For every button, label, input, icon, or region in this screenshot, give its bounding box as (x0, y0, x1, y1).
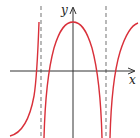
curve-left-branch (10, 22, 39, 136)
x-axis-label: x (129, 74, 136, 86)
function-graph (0, 0, 140, 138)
y-axis-label: y (61, 4, 68, 16)
